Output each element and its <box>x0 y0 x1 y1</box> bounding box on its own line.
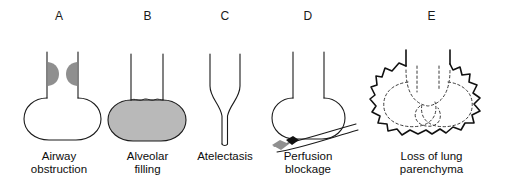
obstruction-left-icon <box>48 62 59 86</box>
panel-caption-d-line2: blockage <box>258 163 358 176</box>
panel-c: C Atelectasis <box>186 0 264 190</box>
panel-caption-c: Atelectasis <box>186 150 264 163</box>
panel-caption-b: Alveolar filling <box>100 150 195 176</box>
obstruction-right-icon <box>66 62 77 86</box>
alveolus-filled-with-fluid-icon <box>100 30 195 150</box>
panel-letter-d: D <box>304 10 313 24</box>
panel-d: D Perfusion blockage <box>258 0 358 190</box>
panel-caption-b-line1: Alveolar <box>100 150 195 163</box>
panel-letter-c: C <box>221 10 230 24</box>
panel-letter-a: A <box>55 10 63 24</box>
panel-letter-e: E <box>427 10 435 24</box>
panel-caption-e-line1: Loss of lung <box>358 150 505 163</box>
panel-caption-e: Loss of lung parenchyma <box>358 150 505 176</box>
emphysematous-airspace-icon <box>358 30 505 150</box>
panel-caption-c-line1: Atelectasis <box>186 150 264 163</box>
embolus-body-icon <box>272 140 289 150</box>
panel-e: E Loss of lung <box>358 0 505 190</box>
panel-caption-d-line1: Perfusion <box>258 150 358 163</box>
panel-caption-e-line2: parenchyma <box>358 163 505 176</box>
collapsed-alveolus-icon <box>186 30 264 150</box>
hypoxemia-mechanisms-figure: A Airway obstruction B <box>0 0 505 190</box>
panel-letter-b: B <box>143 10 151 24</box>
panel-caption-b-line2: filling <box>100 163 195 176</box>
panel-caption-d: Perfusion blockage <box>258 150 358 176</box>
alveolus-with-blocked-vessel-icon <box>258 30 358 150</box>
panel-b: B Alveolar filling <box>100 0 195 190</box>
